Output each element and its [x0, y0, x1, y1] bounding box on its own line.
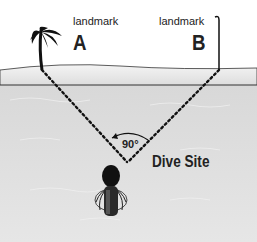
- landmark-b-letter: B: [192, 30, 206, 56]
- landmark-a-letter: A: [73, 30, 87, 56]
- diagram-graphic: [0, 0, 257, 242]
- dive-site-triangulation-diagram: landmark A landmark B 90° Dive Site: [0, 0, 257, 242]
- landmark-b-caption: landmark: [159, 15, 204, 27]
- landmark-a-caption: landmark: [73, 15, 118, 27]
- dive-site-label: Dive Site: [152, 153, 209, 171]
- angle-label: 90°: [122, 138, 139, 150]
- water: [0, 85, 257, 242]
